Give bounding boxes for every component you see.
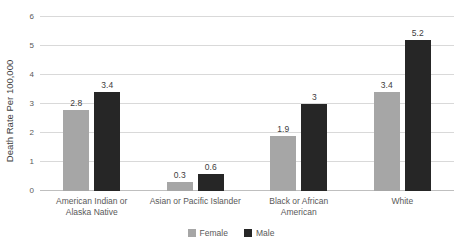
bar-group: 0.30.6: [144, 17, 248, 191]
bar-male: 3: [301, 104, 327, 191]
bar-male: 0.6: [198, 174, 224, 191]
legend-label: Female: [200, 228, 228, 238]
bar-male: 5.2: [405, 40, 431, 191]
bar-groups: 2.83.40.30.61.933.45.2: [40, 17, 454, 191]
y-tick-label: 4: [14, 70, 34, 79]
x-category-label: American Indian or Alaska Native: [40, 196, 144, 219]
value-label: 3: [312, 92, 317, 102]
x-category-label: Asian or Pacific Islander: [144, 196, 248, 219]
y-tick-label: 1: [14, 157, 34, 166]
plot-area: 01234562.83.40.30.61.933.45.2: [40, 17, 454, 191]
y-tick-label: 2: [14, 128, 34, 137]
value-label: 3.4: [381, 80, 393, 90]
y-tick-label: 0: [14, 186, 34, 195]
y-tick-label: 6: [14, 12, 34, 21]
bar-chart: Death Rate Per 100,000 01234562.83.40.30…: [0, 0, 462, 250]
bar-female: 3.4: [374, 92, 400, 191]
value-label: 1.9: [277, 124, 289, 134]
bar-group: 1.93: [247, 17, 351, 191]
x-axis-labels: American Indian or Alaska NativeAsian or…: [40, 196, 454, 219]
legend-label: Male: [256, 228, 274, 238]
value-label: 0.6: [205, 162, 217, 172]
y-tick-label: 3: [14, 99, 34, 108]
legend-swatch-icon: [188, 229, 196, 237]
x-category-label: White: [351, 196, 455, 219]
bar-female: 1.9: [270, 136, 296, 191]
x-category-label: Black or African American: [247, 196, 351, 219]
legend-swatch-icon: [244, 229, 252, 237]
value-label: 0.3: [174, 170, 186, 180]
value-label: 5.2: [412, 28, 424, 38]
legend-item-female: Female: [188, 228, 228, 238]
legend-item-male: Male: [244, 228, 274, 238]
legend: FemaleMale: [0, 228, 462, 238]
bar-female: 2.8: [63, 110, 89, 191]
y-tick-label: 5: [14, 41, 34, 50]
bar-group: 2.83.4: [40, 17, 144, 191]
value-label: 3.4: [101, 80, 113, 90]
bar-male: 3.4: [94, 92, 120, 191]
bar-group: 3.45.2: [351, 17, 455, 191]
value-label: 2.8: [70, 98, 82, 108]
bar-female: 0.3: [167, 182, 193, 191]
